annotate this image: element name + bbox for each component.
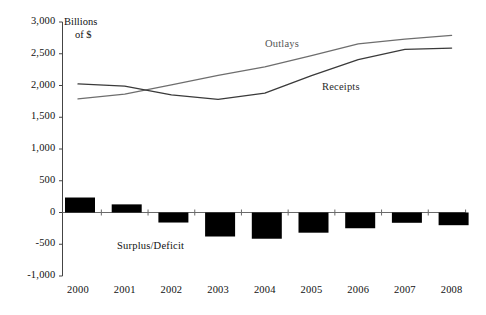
x-tick-label: 2005 — [292, 284, 332, 295]
y-axis-title: Billions of $ — [64, 16, 97, 41]
x-tick-label: 2002 — [151, 284, 191, 295]
y-tick-label: 500 — [0, 174, 56, 185]
y-tick-label: 0 — [0, 206, 56, 217]
x-tick-label: 2006 — [338, 284, 378, 295]
x-tick-label: 2008 — [432, 284, 472, 295]
y-tick-label: 1,500 — [0, 110, 56, 121]
series-label-surplus-deficit: Surplus/Deficit — [117, 240, 184, 251]
x-tick-label: 2007 — [385, 284, 425, 295]
y-axis — [59, 22, 63, 276]
series-label-receipts: Receipts — [322, 81, 360, 92]
series-label-outlays: Outlays — [265, 38, 299, 49]
y-tick-label: -500 — [0, 237, 56, 248]
chart-plot-area — [0, 0, 486, 315]
y-tick-label: 2,000 — [0, 79, 56, 90]
y-tick-label: 1,000 — [0, 142, 56, 153]
y-axis-title-line2: of $ — [64, 29, 97, 42]
x-tick-label: 2001 — [105, 284, 145, 295]
y-tick-label: -1,000 — [0, 269, 56, 280]
x-tick-label: 2004 — [245, 284, 285, 295]
y-tick-label: 3,000 — [0, 15, 56, 26]
y-axis-title-line1: Billions — [64, 16, 97, 27]
bar-series-surplus-deficit — [65, 198, 469, 239]
x-tick-label: 2003 — [198, 284, 238, 295]
chart-figure: 3,0002,5002,0001,5001,0005000-500-1,000 … — [0, 0, 486, 315]
y-tick-label: 2,500 — [0, 47, 56, 58]
x-tick-label: 2000 — [58, 284, 98, 295]
